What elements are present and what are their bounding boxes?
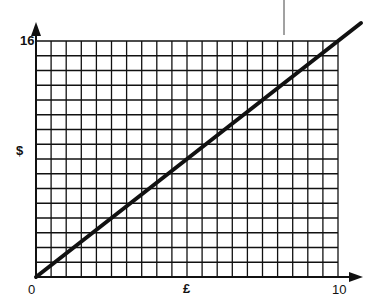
conversion-line (36, 23, 361, 277)
x-axis-arrow-icon (349, 272, 363, 282)
origin-label: 0 (28, 282, 35, 297)
x-max-label: 10 (332, 282, 346, 297)
y-max-label: 16 (20, 33, 34, 48)
x-axis-label: £ (183, 281, 190, 296)
conversion-graph (0, 0, 383, 307)
y-axis-label: $ (16, 143, 23, 158)
